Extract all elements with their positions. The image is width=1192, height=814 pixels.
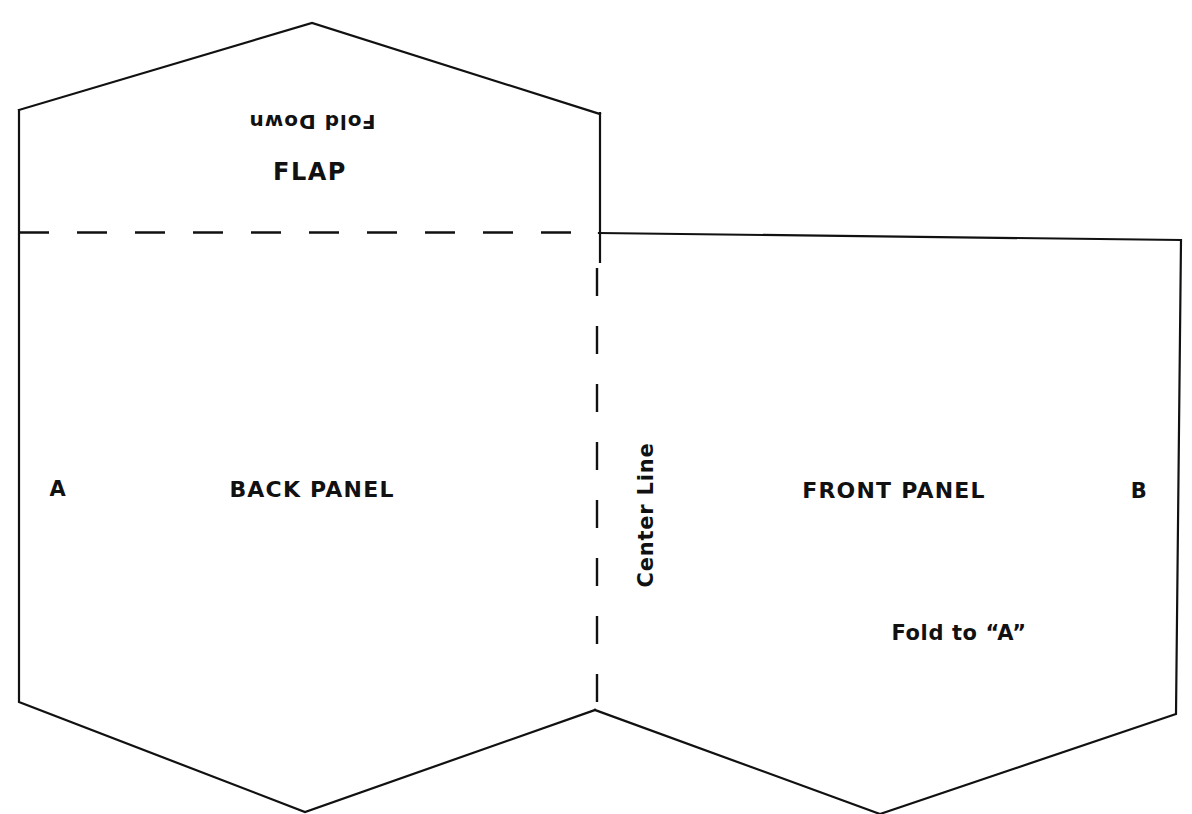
back-panel-label: BACK PANEL [229,477,394,502]
diagram-canvas: Fold Down FLAP A BACK PANEL Center Line … [0,0,1192,814]
flap-outline [19,23,600,114]
back-panel-outline [19,110,595,812]
flap-label: FLAP [273,158,347,186]
center-line-label: Center Line [634,442,658,587]
fold-template-svg [0,0,1192,814]
flap-fold-down-label: Fold Down [249,110,376,134]
front-panel-label: FRONT PANEL [802,478,986,503]
front-panel-outline [595,233,1181,814]
fold-to-a-label: Fold to “A” [891,621,1026,645]
marker-b-label: B [1131,479,1148,503]
marker-a-label: A [50,477,67,501]
